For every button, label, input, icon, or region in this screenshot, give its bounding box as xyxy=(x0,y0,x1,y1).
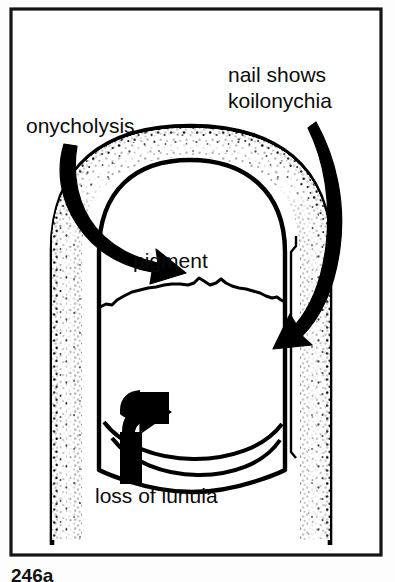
label-pigment: pigment xyxy=(133,249,208,272)
figure-caption: 246a xyxy=(11,566,53,582)
label-loss-of-lunula: loss of lunula xyxy=(95,484,218,507)
label-onycholysis: onycholysis xyxy=(26,114,135,137)
nail-illustration-figure: onycholysis nail shows koilonychia pigme… xyxy=(0,0,395,582)
label-koilonychia: koilonychia xyxy=(228,89,332,112)
label-nail-shows: nail shows xyxy=(228,63,326,86)
nail-diagram-svg: onycholysis nail shows koilonychia pigme… xyxy=(0,0,395,582)
